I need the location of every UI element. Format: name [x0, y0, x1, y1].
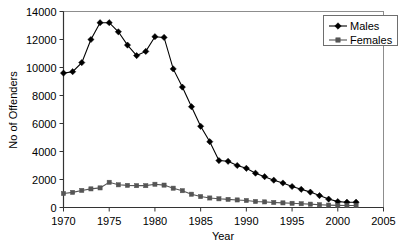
data-point-marker: [226, 197, 230, 201]
data-point-marker: [327, 203, 331, 207]
x-axis-tick-labels: 19701975198019851990199520002005: [51, 215, 395, 227]
data-point-marker: [271, 177, 277, 183]
data-point-marker: [244, 198, 248, 202]
data-point-marker: [199, 194, 203, 198]
data-point-marker: [180, 189, 184, 193]
data-point-marker: [97, 20, 103, 26]
data-point-marker: [234, 162, 240, 168]
x-tick-label: 1985: [188, 215, 212, 227]
y-axis-title: No of Offenders: [7, 71, 19, 149]
x-tick-label: 2000: [326, 215, 350, 227]
x-tick-label: 1980: [143, 215, 167, 227]
data-point-marker: [252, 170, 258, 176]
x-tick-label: 1990: [234, 215, 258, 227]
data-point-marker: [354, 203, 358, 207]
data-point-marker: [272, 200, 276, 204]
x-axis-title: Year: [212, 230, 235, 242]
data-point-marker: [289, 183, 295, 189]
data-point-marker: [60, 70, 66, 76]
data-point-marker: [208, 196, 212, 200]
data-point-marker: [135, 184, 139, 188]
legend-label: Females: [350, 34, 393, 46]
data-point-marker: [235, 198, 239, 202]
y-tick-label: 10000: [26, 62, 57, 74]
data-series-layer: [60, 20, 359, 208]
data-point-marker: [263, 200, 267, 204]
data-point-marker: [116, 183, 120, 187]
y-tick-label: 12000: [26, 34, 57, 46]
data-point-marker: [336, 38, 340, 42]
data-point-marker: [171, 186, 175, 190]
data-point-marker: [188, 104, 194, 110]
data-point-marker: [290, 201, 294, 205]
data-point-marker: [307, 189, 313, 195]
data-point-marker: [217, 197, 221, 201]
y-tick-label: 2000: [32, 174, 56, 186]
data-point-marker: [299, 202, 303, 206]
data-point-marker: [345, 203, 349, 207]
data-point-marker: [161, 34, 167, 40]
x-tick-label: 1975: [97, 215, 121, 227]
data-point-marker: [262, 174, 268, 180]
data-point-marker: [98, 186, 102, 190]
legend-label: Males: [350, 20, 380, 32]
data-point-marker: [153, 182, 157, 186]
data-point-marker: [225, 158, 231, 164]
x-tick-label: 1970: [51, 215, 75, 227]
data-point-marker: [317, 203, 321, 207]
x-tick-label: 2005: [371, 215, 395, 227]
data-point-marker: [298, 186, 304, 192]
y-tick-label: 0: [50, 202, 56, 214]
data-point-marker: [88, 36, 94, 42]
data-point-marker: [189, 192, 193, 196]
data-point-marker: [71, 190, 75, 194]
data-point-marker: [316, 192, 322, 198]
data-point-marker: [89, 187, 93, 191]
y-axis-tick-labels: 02000400060008000100001200014000: [26, 6, 57, 214]
y-tick-label: 4000: [32, 146, 56, 158]
data-point-marker: [243, 165, 249, 171]
x-axis-ticks: [64, 208, 384, 212]
data-point-marker: [170, 66, 176, 72]
data-point-marker: [336, 203, 340, 207]
data-point-marker: [281, 201, 285, 205]
data-point-marker: [326, 196, 332, 202]
data-point-marker: [144, 184, 148, 188]
data-point-marker: [61, 191, 65, 195]
data-point-marker: [207, 139, 213, 145]
y-tick-label: 8000: [32, 90, 56, 102]
data-point-marker: [308, 202, 312, 206]
chart-container: 02000400060008000100001200014000 1970197…: [0, 0, 416, 247]
data-point-marker: [125, 183, 129, 187]
line-chart: 02000400060008000100001200014000 1970197…: [0, 0, 416, 247]
y-tick-label: 14000: [26, 6, 57, 18]
data-point-marker: [253, 199, 257, 203]
data-point-marker: [80, 188, 84, 192]
data-point-marker: [198, 123, 204, 129]
data-point-marker: [179, 84, 185, 90]
data-point-marker: [280, 180, 286, 186]
series-males: [60, 20, 359, 206]
data-point-marker: [216, 157, 222, 163]
data-point-marker: [143, 48, 149, 54]
y-tick-label: 6000: [32, 118, 56, 130]
chart-legend: MalesFemales: [324, 16, 398, 47]
data-point-marker: [152, 34, 158, 40]
data-point-marker: [107, 180, 111, 184]
series-line: [64, 23, 357, 202]
x-tick-label: 1995: [280, 215, 304, 227]
data-point-marker: [162, 183, 166, 187]
